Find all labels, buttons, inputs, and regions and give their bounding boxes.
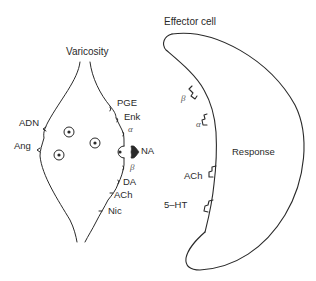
label-response: Response [232, 147, 275, 157]
label-pge: PGE [117, 98, 137, 108]
diagram-canvas: Varicosity ADN Ang PGE Enk α NA β DA ACh… [0, 0, 316, 281]
label-ang: Ang [14, 141, 31, 151]
vesicles [54, 127, 122, 160]
label-ach-effector: ACh [184, 171, 202, 181]
effector-cell-title: Effector cell [164, 17, 216, 27]
label-nic: Nic [108, 206, 122, 216]
label-beta-effector: β [181, 94, 185, 103]
label-alpha-presynaptic: α [128, 125, 133, 134]
label-da: DA [123, 177, 136, 187]
label-5ht-effector: 5–HT [164, 200, 187, 210]
na-release-icon [131, 146, 139, 159]
varicosity-title: Varicosity [66, 47, 109, 57]
receptor-da [118, 180, 119, 184]
label-enk: Enk [124, 112, 140, 122]
label-na: NA [141, 146, 154, 156]
varicosity-left-membrane [40, 62, 80, 242]
label-beta-presynaptic: β [130, 163, 134, 172]
label-ach-presynaptic: ACh [114, 190, 132, 200]
receptor-ang [37, 148, 40, 152]
effector-receptor-beta [189, 86, 197, 99]
receptor-pge [110, 107, 111, 111]
diagram-drawing [0, 0, 316, 281]
effector-receptor-alpha [202, 114, 207, 125]
label-adn: ADN [19, 118, 39, 128]
label-alpha-effector: α [196, 120, 201, 129]
